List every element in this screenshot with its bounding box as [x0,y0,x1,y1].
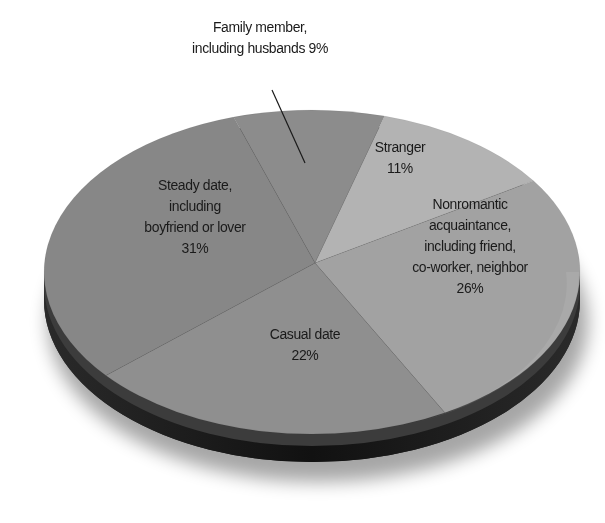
label-casual-line1: Casual date [247,323,364,344]
label-family-line1: Family member, [152,16,368,37]
label-steady-line2: including [119,195,272,216]
label-nonromantic-line5: 26% [385,277,556,298]
label-stranger-line2: 11% [351,157,450,178]
label-stranger: Stranger 11% [351,136,450,178]
label-steady: Steady date, including boyfriend or love… [119,174,272,258]
label-steady-line1: Steady date, [119,174,272,195]
label-nonromantic-line1: Nonromantic [385,193,556,214]
label-family-line2: including husbands 9% [152,37,368,58]
label-casual: Casual date 22% [247,323,364,365]
label-nonromantic-line2: acquaintance, [385,214,556,235]
label-nonromantic: Nonromantic acquaintance, including frie… [385,193,556,298]
label-family: Family member, including husbands 9% [152,16,368,58]
label-nonromantic-line4: co-worker, neighbor [385,256,556,277]
label-steady-line3: boyfriend or lover [119,216,272,237]
label-steady-line4: 31% [119,237,272,258]
label-casual-line2: 22% [247,344,364,365]
label-stranger-line1: Stranger [351,136,450,157]
label-nonromantic-line3: including friend, [385,235,556,256]
